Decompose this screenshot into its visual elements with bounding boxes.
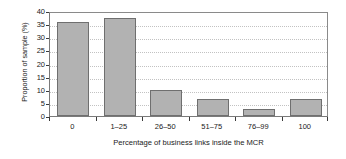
- bar: [243, 109, 275, 116]
- x-tick-mark: [327, 117, 328, 121]
- x-tick-label: 1–25: [110, 122, 127, 132]
- bar: [150, 90, 182, 116]
- x-tick-mark: [282, 117, 283, 121]
- bar: [290, 99, 322, 116]
- bar-chart-figure: Proportion of sample (%) 051015202530354…: [0, 0, 346, 159]
- plot-area: [49, 12, 328, 117]
- x-tick-mark: [96, 117, 97, 121]
- gridline: [50, 26, 327, 27]
- x-tick-mark: [142, 117, 143, 121]
- y-axis-ticks: 0510152025303540: [27, 12, 49, 117]
- y-tick-label: 0: [41, 113, 45, 121]
- x-axis-tick-labels: 01–2526–5051–7576–99100: [49, 122, 328, 134]
- y-tick-label: 20: [37, 61, 45, 69]
- x-axis-title: Percentage of business links inside the …: [49, 138, 328, 148]
- y-tick-label: 10: [37, 87, 45, 95]
- gridline: [50, 79, 327, 80]
- gridline: [50, 52, 327, 53]
- x-tick-label: 0: [70, 122, 74, 132]
- x-tick-mark: [235, 117, 236, 121]
- gridline: [50, 92, 327, 93]
- bar: [57, 22, 89, 117]
- gridline: [50, 66, 327, 67]
- y-tick-label: 35: [37, 21, 45, 29]
- x-tick-mark: [49, 117, 50, 121]
- x-tick-mark: [189, 117, 190, 121]
- y-tick-label: 25: [37, 47, 45, 55]
- x-tick-label: 26–50: [155, 122, 176, 132]
- x-tick-label: 100: [298, 122, 311, 132]
- x-tick-label: 76–99: [248, 122, 269, 132]
- gridline: [50, 39, 327, 40]
- y-tick-label: 5: [41, 100, 45, 108]
- bar: [104, 18, 136, 116]
- y-tick-label: 30: [37, 34, 45, 42]
- gridline: [50, 105, 327, 106]
- bar: [197, 99, 229, 116]
- x-tick-label: 51–75: [201, 122, 222, 132]
- y-tick-label: 15: [37, 74, 45, 82]
- plot-inner: [50, 13, 327, 116]
- y-tick-label: 40: [37, 8, 45, 16]
